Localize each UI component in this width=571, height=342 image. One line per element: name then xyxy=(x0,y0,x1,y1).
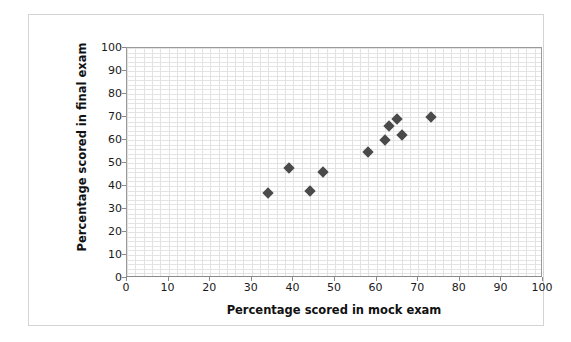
y-tick-label: 90 xyxy=(96,64,122,77)
x-tick-label: 0 xyxy=(123,281,130,294)
chart-screenshot: Percentage scored in final exam 01020304… xyxy=(0,0,571,342)
data-point-marker xyxy=(263,187,274,198)
data-point-marker xyxy=(396,130,407,141)
data-point-marker xyxy=(284,162,295,173)
data-point-marker xyxy=(392,114,403,125)
data-point-marker xyxy=(379,134,390,145)
data-point-marker xyxy=(363,146,374,157)
y-tick-label: 100 xyxy=(96,41,122,54)
x-tick-label: 90 xyxy=(493,281,507,294)
y-axis-title: Percentage scored in final exam xyxy=(75,32,89,262)
y-tick-label: 70 xyxy=(96,110,122,123)
plot-area xyxy=(126,47,542,277)
y-tick-label: 60 xyxy=(96,133,122,146)
y-tick-label: 0 xyxy=(96,271,122,284)
x-tick-label: 100 xyxy=(532,281,553,294)
y-tick-label: 30 xyxy=(96,202,122,215)
y-tick-label: 20 xyxy=(96,225,122,238)
x-axis-tick-labels: 0102030405060708090100 xyxy=(126,281,542,299)
x-tick-label: 70 xyxy=(410,281,424,294)
x-tick-label: 50 xyxy=(327,281,341,294)
x-tick-label: 30 xyxy=(244,281,258,294)
chart-outer-frame: Percentage scored in final exam 01020304… xyxy=(28,14,544,326)
x-tick-label: 20 xyxy=(202,281,216,294)
x-tick-label: 80 xyxy=(452,281,466,294)
y-tick-label: 40 xyxy=(96,179,122,192)
x-tick-label: 40 xyxy=(285,281,299,294)
x-tick-label: 60 xyxy=(369,281,383,294)
x-tick-label: 10 xyxy=(161,281,175,294)
data-point-marker xyxy=(383,121,394,132)
y-tick-label: 10 xyxy=(96,248,122,261)
y-tick-label: 50 xyxy=(96,156,122,169)
data-point-marker xyxy=(425,111,436,122)
x-axis-title: Percentage scored in mock exam xyxy=(126,303,542,317)
data-point-marker xyxy=(317,167,328,178)
data-point-marker xyxy=(304,185,315,196)
y-tick-label: 80 xyxy=(96,87,122,100)
y-axis-tick-labels: 0102030405060708090100 xyxy=(91,47,122,277)
